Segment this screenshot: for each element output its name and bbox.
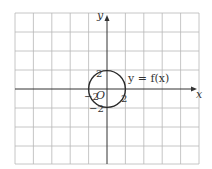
y-axis-arrow-icon <box>105 15 110 21</box>
tick-label-left: −2 <box>84 91 99 102</box>
coordinate-plane: x y O y = f(x) 2 2 −2 −2 <box>0 0 212 169</box>
x-axis-label: x <box>196 88 203 101</box>
tick-label-bottom: −2 <box>89 103 104 114</box>
function-label: y = f(x) <box>127 72 169 85</box>
tick-label-right: 2 <box>121 93 127 104</box>
tick-label-top: 2 <box>96 68 102 79</box>
y-axis-label: y <box>96 9 104 22</box>
